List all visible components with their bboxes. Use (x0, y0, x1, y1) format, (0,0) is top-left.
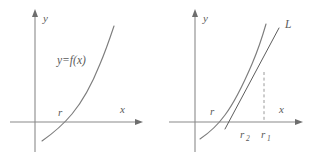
approx-label-r1-subscript: 1 (267, 134, 271, 143)
approx-label-r1-base: r (261, 128, 266, 140)
figure-root: y x y=f(x) r y x L r r (0, 0, 314, 157)
root-label-r: r (210, 105, 215, 117)
panel-newton-iteration-graph: y x L r r 2 r 1 (157, 0, 314, 157)
tangent-line-L (225, 28, 279, 129)
approx-label-r1: r 1 (261, 128, 271, 143)
y-axis-arrow-icon (32, 9, 38, 17)
function-label: y=f(x) (56, 54, 86, 67)
y-axis-arrow-icon (192, 9, 198, 17)
y-axis-label: y (42, 12, 48, 24)
root-label-r: r (58, 106, 63, 118)
panel-function-graph: y x y=f(x) r (0, 0, 157, 157)
tangent-line-label-L: L (284, 18, 291, 30)
approx-label-r2-subscript: 2 (246, 134, 250, 143)
x-axis-label: x (119, 103, 125, 115)
x-axis-arrow-icon (135, 119, 143, 125)
x-axis-arrow-icon (295, 119, 303, 125)
approx-label-r2: r 2 (240, 128, 250, 143)
function-curve (42, 26, 114, 141)
y-axis-label: y (202, 12, 208, 24)
x-axis-label: x (278, 103, 284, 115)
approx-label-r2-base: r (240, 128, 245, 140)
